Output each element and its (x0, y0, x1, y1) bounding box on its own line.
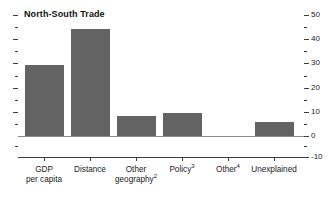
x-label-line1: Other (126, 165, 146, 174)
y-tick-left-15 (15, 100, 18, 101)
y-tick-left-40 (13, 39, 18, 40)
y-tick-left-25 (15, 76, 18, 77)
y-tick-left-45 (15, 27, 18, 28)
y-tick-label-minus10: -10 (311, 153, 323, 161)
y-tick-label-10: 10 (311, 108, 320, 116)
y-tick-label-20: 20 (311, 84, 320, 92)
x-label-line2: geography2 (106, 175, 166, 185)
plot-area: 50 40 30 20 10 0 -10 (0, 0, 330, 200)
y-tick-right-5 (304, 124, 307, 125)
y-tick-right-45 (304, 27, 307, 28)
x-label-line1: Unexplained (251, 165, 297, 174)
zero-line (18, 136, 304, 137)
y-tick-left-10 (13, 112, 18, 113)
x-label-line1: GDP (35, 165, 53, 174)
x-label-unexplained: Unexplained (244, 165, 304, 175)
y-tick-right-25 (304, 76, 307, 77)
y-tick-right-20 (304, 88, 309, 89)
y-tick-left-35 (15, 51, 18, 52)
x-tick-unexplained (274, 157, 275, 161)
x-label-footnote: 3 (191, 163, 194, 169)
y-tick-label-0: 0 (311, 132, 315, 140)
x-label-line2-text: geography (115, 175, 154, 184)
x-tick-policy (182, 157, 183, 161)
y-tick-left-5 (15, 124, 18, 125)
x-label-line2: per capita (14, 175, 74, 185)
y-tick-label-30: 30 (311, 59, 320, 67)
y-tick-left-20 (13, 88, 18, 89)
x-tick-other-geography (136, 157, 137, 161)
x-label-footnote: 4 (237, 163, 240, 169)
x-label-line1: Other (216, 165, 236, 174)
bar-gdp-per-capita[interactable] (25, 65, 64, 136)
y-tick-left-30 (13, 63, 18, 64)
x-tick-other (228, 157, 229, 161)
x-axis-line (18, 157, 306, 158)
chart-container: North-South Trade 50 40 30 20 10 (0, 0, 330, 200)
y-tick-right-40 (304, 39, 309, 40)
bar-policy[interactable] (163, 113, 202, 136)
bar-other-geography[interactable] (117, 116, 156, 136)
y-tick-right-10 (304, 112, 309, 113)
x-tick-distance (90, 157, 91, 161)
y-tick-right-30 (304, 63, 309, 64)
y-tick-right-minus5 (304, 146, 307, 147)
x-label-line1: Distance (74, 165, 106, 174)
y-tick-label-50: 50 (311, 11, 320, 19)
x-label-line1: Policy (169, 165, 191, 174)
y-tick-label-40: 40 (311, 35, 320, 43)
bar-unexplained[interactable] (255, 122, 294, 136)
bar-distance[interactable] (71, 29, 110, 136)
y-tick-right-15 (304, 100, 307, 101)
y-tick-right-minus10 (304, 157, 309, 158)
y-tick-right-50 (304, 15, 309, 16)
y-tick-right-0 (304, 136, 309, 137)
y-tick-left-50 (13, 15, 18, 16)
x-tick-gdp-per-capita (44, 157, 45, 161)
y-tick-right-35 (304, 51, 307, 52)
y-tick-left-minus5 (15, 146, 18, 147)
